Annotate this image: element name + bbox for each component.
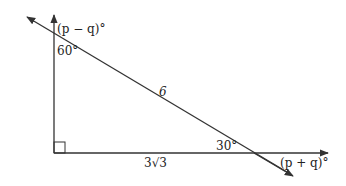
label-top-interior-angle: 60° xyxy=(57,44,78,58)
right-angle-marker xyxy=(54,142,65,153)
label-hypotenuse: 6 xyxy=(159,85,167,99)
triangle-diagram: (p − q)° 60° 6 30° 3√3 (p + q)° xyxy=(0,0,346,186)
label-top-exterior-angle: (p − q)° xyxy=(57,22,105,36)
label-base: 3√3 xyxy=(144,156,167,170)
label-bottom-interior-angle: 30° xyxy=(216,139,237,153)
label-bottom-exterior-angle: (p + q)° xyxy=(280,156,328,170)
